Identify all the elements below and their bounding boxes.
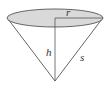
cone-diagram: r h s <box>0 0 110 89</box>
radius-label: r <box>66 6 71 18</box>
slant-label: s <box>80 51 84 63</box>
slant-height-line <box>55 19 102 81</box>
height-label: h <box>46 46 52 58</box>
